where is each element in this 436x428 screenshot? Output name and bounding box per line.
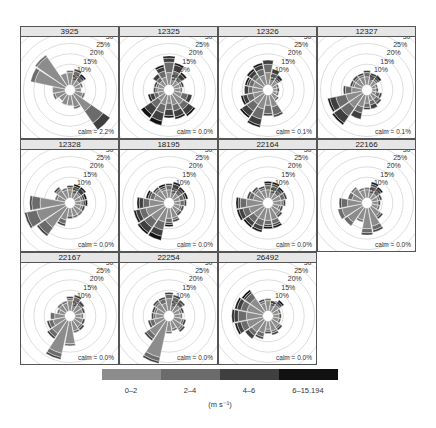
svg-text:15%: 15% bbox=[281, 284, 295, 291]
calm-label: calm = 0.0% bbox=[375, 241, 411, 248]
panel-title: 18195 bbox=[120, 140, 217, 150]
svg-text:25%: 25% bbox=[195, 267, 209, 274]
svg-text:25%: 25% bbox=[96, 41, 110, 48]
svg-text:30: 30 bbox=[106, 37, 114, 40]
windrose-plot: 5%10%15%20%25%30 bbox=[219, 150, 316, 252]
svg-text:30: 30 bbox=[205, 150, 213, 153]
svg-text:15%: 15% bbox=[281, 58, 295, 65]
svg-text:30: 30 bbox=[403, 37, 411, 40]
svg-text:10%: 10% bbox=[176, 179, 190, 186]
svg-text:5%: 5% bbox=[72, 187, 82, 194]
svg-text:5%: 5% bbox=[270, 74, 280, 81]
svg-text:15%: 15% bbox=[380, 171, 394, 178]
windrose-panel: 221675%10%15%20%25%30calm = 0.0% bbox=[20, 252, 119, 365]
svg-text:30: 30 bbox=[403, 150, 411, 153]
svg-text:15%: 15% bbox=[83, 171, 97, 178]
svg-text:20%: 20% bbox=[189, 49, 203, 56]
svg-text:15%: 15% bbox=[182, 284, 196, 291]
svg-text:15%: 15% bbox=[182, 171, 196, 178]
svg-text:10%: 10% bbox=[275, 292, 289, 299]
legend-label-2: 4–6 bbox=[243, 386, 256, 395]
panel-title: 22166 bbox=[318, 140, 415, 150]
calm-label: calm = 0.0% bbox=[177, 128, 213, 135]
windrose-grid: 39255%10%15%20%25%30calm = 2.2%123255%10… bbox=[20, 26, 417, 365]
calm-label: calm = 0.0% bbox=[276, 241, 312, 248]
svg-text:30: 30 bbox=[205, 37, 213, 40]
svg-text:5%: 5% bbox=[171, 74, 181, 81]
svg-text:20%: 20% bbox=[288, 49, 302, 56]
panel-title: 3925 bbox=[21, 27, 118, 37]
calm-label: calm = 0.0% bbox=[276, 354, 312, 361]
svg-text:30: 30 bbox=[106, 263, 114, 266]
panel-title: 12326 bbox=[219, 27, 316, 37]
legend-swatch-2-4 bbox=[161, 369, 220, 380]
panel-title: 22164 bbox=[219, 140, 316, 150]
windrose-plot: 5%10%15%20%25%30 bbox=[21, 37, 118, 139]
windrose-panel: 123275%10%15%20%25%30calm = 0.1% bbox=[317, 26, 416, 139]
svg-text:30: 30 bbox=[304, 37, 312, 40]
svg-text:5%: 5% bbox=[171, 300, 181, 307]
panel-title: 22167 bbox=[21, 253, 118, 263]
svg-text:5%: 5% bbox=[270, 187, 280, 194]
svg-text:20%: 20% bbox=[90, 162, 104, 169]
svg-text:25%: 25% bbox=[294, 154, 308, 161]
speed-legend bbox=[102, 369, 338, 380]
windrose-plot: 5%10%15%20%25%30 bbox=[21, 263, 118, 365]
svg-text:10%: 10% bbox=[374, 66, 388, 73]
svg-text:25%: 25% bbox=[195, 41, 209, 48]
svg-text:20%: 20% bbox=[288, 275, 302, 282]
svg-text:20%: 20% bbox=[387, 49, 401, 56]
svg-text:30: 30 bbox=[106, 150, 114, 153]
windrose-panel: 181955%10%15%20%25%30calm = 0.0% bbox=[119, 139, 218, 252]
svg-text:25%: 25% bbox=[96, 267, 110, 274]
windrose-panel: 123285%10%15%20%25%30calm = 0.0% bbox=[20, 139, 119, 252]
windrose-panel: 264925%10%15%20%25%30calm = 0.0% bbox=[218, 252, 317, 365]
legend-label-1: 2–4 bbox=[184, 386, 197, 395]
windrose-panel: 39255%10%15%20%25%30calm = 2.2% bbox=[20, 26, 119, 139]
svg-text:25%: 25% bbox=[294, 267, 308, 274]
svg-text:5%: 5% bbox=[369, 187, 379, 194]
svg-text:30: 30 bbox=[205, 263, 213, 266]
svg-text:20%: 20% bbox=[189, 162, 203, 169]
svg-text:25%: 25% bbox=[195, 154, 209, 161]
windrose-plot: 5%10%15%20%25%30 bbox=[120, 263, 217, 365]
windrose-plot: 5%10%15%20%25%30 bbox=[219, 37, 316, 139]
windrose-panel: 221665%10%15%20%25%30calm = 0.0% bbox=[317, 139, 416, 252]
svg-text:25%: 25% bbox=[96, 154, 110, 161]
svg-text:10%: 10% bbox=[374, 179, 388, 186]
calm-label: calm = 0.0% bbox=[78, 354, 114, 361]
windrose-panel: 222545%10%15%20%25%30calm = 0.0% bbox=[119, 252, 218, 365]
legend-units: (m s⁻¹) bbox=[208, 400, 232, 409]
svg-text:10%: 10% bbox=[275, 179, 289, 186]
calm-label: calm = 0.1% bbox=[276, 128, 312, 135]
calm-label: calm = 0.0% bbox=[177, 241, 213, 248]
legend-label-3: 6–15.194 bbox=[292, 386, 323, 395]
svg-text:10%: 10% bbox=[77, 66, 91, 73]
svg-text:15%: 15% bbox=[380, 58, 394, 65]
svg-text:20%: 20% bbox=[90, 275, 104, 282]
svg-text:10%: 10% bbox=[77, 179, 91, 186]
svg-text:10%: 10% bbox=[176, 66, 190, 73]
windrose-panel: 123265%10%15%20%25%30calm = 0.1% bbox=[218, 26, 317, 139]
svg-text:30: 30 bbox=[304, 263, 312, 266]
svg-text:20%: 20% bbox=[387, 162, 401, 169]
calm-label: calm = 0.1% bbox=[375, 128, 411, 135]
legend-swatch-4-6 bbox=[220, 369, 279, 380]
svg-text:20%: 20% bbox=[90, 49, 104, 56]
svg-text:5%: 5% bbox=[369, 74, 379, 81]
svg-text:25%: 25% bbox=[393, 41, 407, 48]
svg-text:5%: 5% bbox=[72, 74, 82, 81]
svg-text:10%: 10% bbox=[176, 292, 190, 299]
calm-label: calm = 2.2% bbox=[78, 128, 114, 135]
svg-text:15%: 15% bbox=[83, 58, 97, 65]
svg-text:20%: 20% bbox=[288, 162, 302, 169]
panel-title: 12327 bbox=[318, 27, 415, 37]
svg-text:15%: 15% bbox=[182, 58, 196, 65]
svg-text:5%: 5% bbox=[72, 300, 82, 307]
windrose-panel: 123255%10%15%20%25%30calm = 0.0% bbox=[119, 26, 218, 139]
calm-label: calm = 0.0% bbox=[177, 354, 213, 361]
svg-text:10%: 10% bbox=[275, 66, 289, 73]
panel-title: 26492 bbox=[219, 253, 316, 263]
calm-label: calm = 0.0% bbox=[78, 241, 114, 248]
windrose-plot: 5%10%15%20%25%30 bbox=[120, 37, 217, 139]
